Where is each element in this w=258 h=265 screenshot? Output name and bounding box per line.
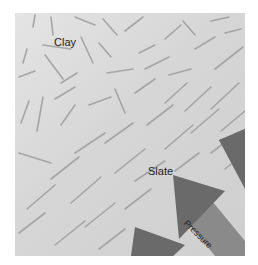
pressure-arrows (15, 13, 245, 256)
pressure-arrow-top-right (219, 128, 245, 189)
clay-label: Clay (54, 36, 76, 48)
pressure-arrow-bottom-left (130, 227, 185, 256)
slate-label: Slate (148, 165, 173, 177)
diagram-panel: Clay Slate Pressure (15, 13, 245, 256)
